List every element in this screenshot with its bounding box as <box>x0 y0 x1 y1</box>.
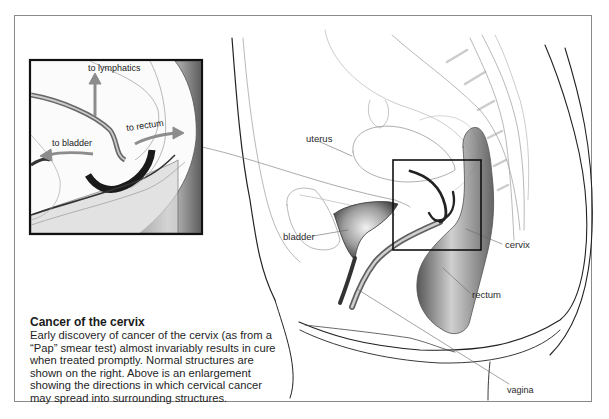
label-bladder: bladder <box>283 232 315 242</box>
figure-caption: Cancer of the cervix Early discovery of … <box>30 315 280 405</box>
label-vagina: vagina <box>507 386 534 395</box>
label-rectum: rectum <box>472 290 501 300</box>
label-to-lymphatics: to lymphatics <box>88 64 141 73</box>
caption-title: Cancer of the cervix <box>30 315 280 329</box>
label-cervix: cervix <box>505 240 530 250</box>
caption-body: Early discovery of cancer of the cervix … <box>30 329 280 405</box>
label-to-bladder: to bladder <box>52 139 92 148</box>
label-uterus: uterus <box>306 134 332 144</box>
